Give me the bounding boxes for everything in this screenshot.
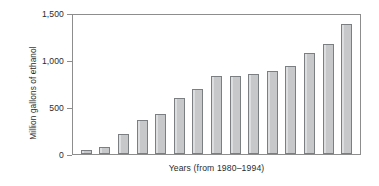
- bar: [248, 74, 259, 154]
- bar: [267, 71, 278, 154]
- bar: [230, 76, 241, 154]
- bar: [174, 98, 185, 154]
- bar: [99, 147, 110, 154]
- y-axis-tick-label: 0: [6, 149, 64, 161]
- y-axis-tick-label: 1,500: [6, 8, 64, 20]
- bar: [304, 53, 315, 154]
- bar-chart-figure: Million gallons of ethanol 05001,0001,50…: [0, 0, 379, 186]
- bar: [211, 76, 222, 154]
- x-axis-title: Years (from 1980–1994): [72, 163, 361, 173]
- y-axis-tick-label: 1,000: [6, 55, 64, 67]
- bar: [323, 44, 334, 154]
- y-axis-tick-mark: [67, 155, 72, 156]
- bar: [118, 134, 129, 154]
- bar: [285, 66, 296, 154]
- bar: [81, 150, 92, 154]
- bar: [192, 89, 203, 154]
- bar: [137, 120, 148, 154]
- y-axis-tick-label: 500: [6, 102, 64, 114]
- bar: [341, 24, 352, 154]
- bar: [155, 114, 166, 154]
- bar-series: [73, 15, 360, 154]
